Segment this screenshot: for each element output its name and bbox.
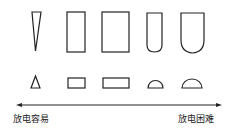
- wide-rounded-bottom-shape: [181, 13, 204, 53]
- easy-discharge-label: 放电容易: [13, 112, 49, 125]
- small-semicircle-shape: [148, 81, 163, 89]
- small-triangle-shape: [31, 76, 40, 88]
- needle-triangle-shape: [32, 12, 41, 51]
- narrow-rectangle-shape: [67, 12, 85, 52]
- long-rectangle-shape: [103, 78, 129, 88]
- hard-discharge-label: 放电困难: [178, 112, 214, 125]
- left-arrowhead-icon: [16, 103, 22, 107]
- right-arrowhead-icon: [216, 103, 222, 107]
- small-rectangle-shape: [68, 78, 85, 88]
- large-semicircle-shape: [182, 79, 202, 88]
- wide-rectangle-shape: [102, 12, 129, 52]
- narrow-rounded-bottom-shape: [147, 13, 162, 52]
- electrode-shapes-diagram: [0, 0, 228, 130]
